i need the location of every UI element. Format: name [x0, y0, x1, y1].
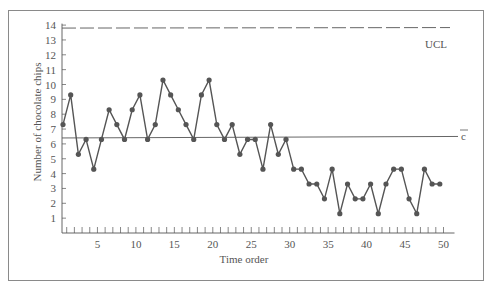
- ucl-label: UCL: [425, 38, 447, 50]
- data-point: [122, 137, 127, 142]
- data-point: [368, 181, 373, 186]
- data-point: [99, 137, 104, 142]
- data-point: [353, 196, 358, 201]
- data-point: [191, 137, 196, 142]
- y-tick-label: 4: [51, 168, 57, 180]
- data-point: [60, 122, 65, 127]
- mean-label: c: [461, 130, 466, 142]
- y-tick-label: 11: [45, 64, 56, 76]
- data-point: [268, 122, 273, 127]
- data-point: [214, 122, 219, 127]
- data-point: [68, 92, 73, 97]
- y-tick-label: 6: [51, 138, 57, 150]
- x-tick-label: 5: [95, 238, 101, 250]
- y-tick-label: 12: [45, 49, 56, 61]
- x-tick-label: 30: [284, 238, 296, 250]
- data-point: [153, 122, 158, 127]
- data-point: [430, 181, 435, 186]
- data-point: [160, 77, 165, 82]
- data-point: [437, 181, 442, 186]
- y-tick-label: 10: [45, 79, 57, 91]
- x-tick-label: 20: [207, 238, 219, 250]
- data-series: [60, 77, 442, 216]
- y-tick-label: 7: [51, 123, 57, 135]
- y-tick-label: 2: [51, 197, 57, 209]
- data-point: [337, 211, 342, 216]
- data-point: [376, 211, 381, 216]
- data-point: [253, 137, 258, 142]
- data-point: [330, 167, 335, 172]
- data-point: [114, 122, 119, 127]
- axes: 12345678910111213145101520253035404550: [45, 19, 455, 250]
- data-point: [76, 152, 81, 157]
- data-point: [199, 92, 204, 97]
- data-point: [299, 167, 304, 172]
- data-point: [383, 181, 388, 186]
- data-point: [322, 196, 327, 201]
- data-point: [345, 181, 350, 186]
- data-point: [176, 107, 181, 112]
- data-point: [130, 107, 135, 112]
- data-point: [183, 122, 188, 127]
- data-point: [137, 92, 142, 97]
- x-tick-label: 25: [246, 238, 258, 250]
- y-tick-label: 13: [45, 34, 57, 46]
- data-point: [91, 167, 96, 172]
- data-point: [306, 181, 311, 186]
- data-point: [207, 77, 212, 82]
- x-tick-label: 10: [130, 238, 142, 250]
- data-point: [276, 152, 281, 157]
- data-point: [83, 137, 88, 142]
- data-point: [360, 196, 365, 201]
- data-point: [168, 92, 173, 97]
- y-axis-label: Number of chocolate chips: [31, 63, 43, 182]
- x-tick-label: 50: [438, 238, 450, 250]
- x-axis-label: Time order: [220, 253, 269, 265]
- y-tick-label: 5: [51, 153, 57, 165]
- data-point: [222, 137, 227, 142]
- data-point: [230, 122, 235, 127]
- data-point: [291, 167, 296, 172]
- x-tick-label: 40: [361, 238, 373, 250]
- x-tick-label: 35: [323, 238, 335, 250]
- data-point: [283, 137, 288, 142]
- data-point: [406, 196, 411, 201]
- data-point: [145, 137, 150, 142]
- data-point: [414, 211, 419, 216]
- y-tick-label: 3: [51, 182, 57, 194]
- mean-line: [62, 136, 458, 138]
- y-tick-label: 8: [51, 108, 57, 120]
- data-point: [422, 167, 427, 172]
- y-tick-label: 14: [45, 19, 57, 31]
- ucl-line: [62, 28, 450, 29]
- x-tick-label: 15: [169, 238, 181, 250]
- reference-lines: [62, 28, 458, 138]
- data-point: [245, 137, 250, 142]
- data-point: [107, 107, 112, 112]
- data-point: [237, 152, 242, 157]
- data-point: [399, 167, 404, 172]
- y-tick-label: 9: [51, 93, 57, 105]
- series-line: [63, 80, 440, 214]
- y-tick-label: 1: [51, 212, 57, 224]
- control-chart: 12345678910111213145101520253035404550 U…: [0, 0, 493, 294]
- data-point: [391, 167, 396, 172]
- x-tick-label: 45: [400, 238, 412, 250]
- data-point: [260, 167, 265, 172]
- data-point: [314, 181, 319, 186]
